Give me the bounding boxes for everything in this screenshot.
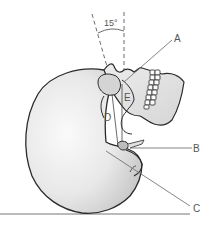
label-b: B <box>193 143 200 154</box>
face <box>104 64 184 125</box>
angle-indicator: 15° <box>92 12 124 72</box>
label-e: E <box>124 92 131 103</box>
label-a: A <box>174 33 181 44</box>
label-c: C <box>193 203 200 214</box>
label-d: D <box>104 112 111 123</box>
structure-d-line <box>112 94 118 146</box>
angle-label: 15° <box>104 18 118 28</box>
skull-diagram: 15° A B C D <box>0 0 210 227</box>
